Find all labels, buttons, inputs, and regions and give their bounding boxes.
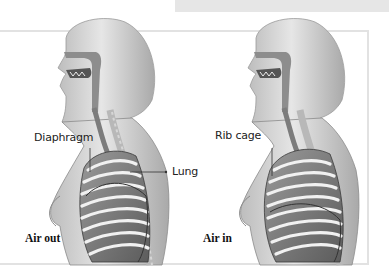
caption-air-in: Air in <box>203 232 232 244</box>
caption-air-out: Air out <box>25 232 60 244</box>
label-lung: Lung <box>172 165 198 178</box>
label-diaphragm: Diaphragm <box>34 131 93 144</box>
label-rib-cage: Rib cage <box>215 129 261 142</box>
